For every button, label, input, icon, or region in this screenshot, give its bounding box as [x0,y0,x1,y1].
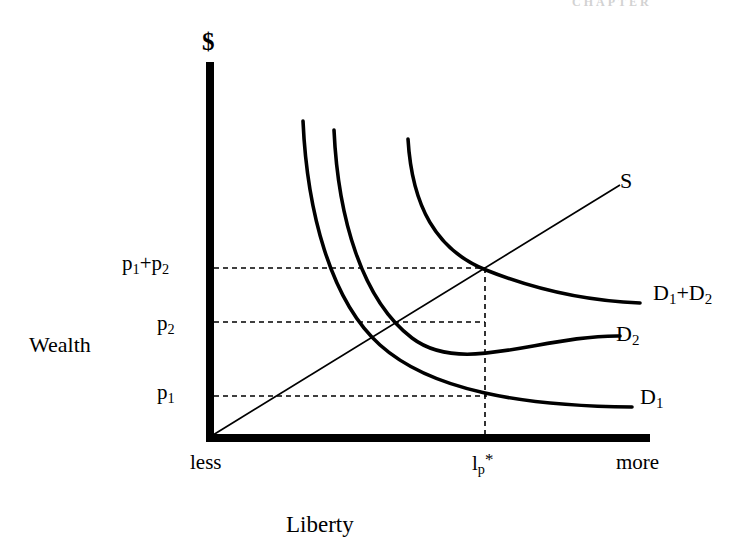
y-tick-p2-sub: 2 [168,321,175,337]
x-tick-lp-star: * [485,450,493,469]
curve-label-d1-base: D [640,384,656,409]
curve-label-d2-base: D [616,321,632,346]
curve-label-d2-sub: 2 [632,332,639,348]
curve-label-d1-plus-d2: D1+D2 [653,282,712,307]
y-tick-label-p1-plus-p2: p1+p2 [122,253,169,276]
x-tick-label-less: less [190,452,222,473]
y-tick-p1-plus-p2-plus: +p [140,251,162,275]
demand-curve-d2 [334,130,620,354]
curve-label-supply: S [620,170,632,192]
curve-label-d1d2-sub2: 2 [705,291,712,307]
curve-label-d1-sub: 1 [656,395,663,411]
y-tick-p1-plus-p2-base: p [122,251,133,275]
y-tick-p2-base: p [157,311,168,335]
x-tick-lp-sub: p [478,461,485,477]
y-tick-p1-sub: 1 [168,390,175,406]
y-tick-label-p2: p2 [157,313,175,336]
curve-label-d1: D1 [640,386,663,411]
economics-supply-demand-figure: CHAPTER $ Wealth Liberty p1+p2 p2 p1 les… [0,0,742,557]
x-axis-title-liberty: Liberty [286,513,354,536]
curve-label-d1d2-base: D [653,280,669,305]
y-tick-p1-plus-p2-sub2: 2 [162,261,169,277]
supply-curve-s [213,185,620,435]
y-tick-p1-plus-p2-sub1: 1 [133,261,140,277]
y-tick-label-p1: p1 [157,382,175,405]
y-axis-title-wealth: Wealth [29,334,91,356]
x-tick-label-more: more [616,452,659,473]
x-tick-label-lp-star: lp* [472,452,493,477]
curve-label-d2: D2 [616,323,639,348]
curve-label-d1d2-plus: +D [676,280,704,305]
demand-curve-d1-plus-d2 [408,139,640,303]
page-header-fragment: CHAPTER [572,0,652,8]
y-axis-dollar-label: $ [202,29,215,54]
y-tick-p1-base: p [157,380,168,404]
axes-lines [206,62,650,441]
demand-curve-d1 [303,121,632,407]
